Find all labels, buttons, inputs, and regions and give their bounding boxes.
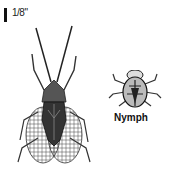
adult-lace-bug-icon [14, 20, 94, 168]
scale-bar [4, 8, 7, 22]
nymph-icon [107, 70, 163, 110]
nymph-label: Nymph [114, 112, 148, 123]
insect-illustration: 1/8" [0, 0, 177, 171]
scale-label: 1/8" [12, 7, 27, 18]
